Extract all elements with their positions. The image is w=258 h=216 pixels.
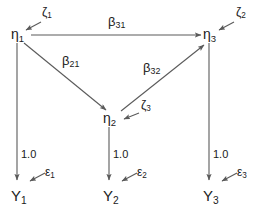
- path-arrows-layer: [0, 0, 258, 216]
- error-label-epsilon1: ε1: [45, 166, 55, 180]
- disturbance-label-zeta2: ζ2: [236, 6, 246, 20]
- observed-node-Y2: Y2: [103, 188, 119, 206]
- arrow-zeta3-to-eta2: [124, 113, 139, 119]
- disturbance-label-zeta1: ζ1: [42, 6, 52, 20]
- latent-node-eta1: η1: [11, 27, 24, 43]
- arrow-epsilon1-to-Y1: [30, 173, 45, 181]
- loading-label-2: 1.0: [113, 149, 128, 160]
- path-diagram-canvas: η1 η2 η3 ζ1 ζ2 ζ3 β31 β21 β32 1.0 1.0 1.…: [0, 0, 258, 216]
- arrow-zeta1-to-eta1: [26, 22, 41, 30]
- latent-node-eta3: η3: [203, 27, 216, 43]
- loading-label-3: 1.0: [213, 149, 228, 160]
- latent-node-eta2: η2: [103, 111, 116, 127]
- arrow-zeta2-to-eta3: [219, 22, 234, 30]
- arrow-epsilon3-to-Y3: [222, 173, 237, 181]
- observed-node-Y1: Y1: [11, 188, 27, 206]
- loading-label-1: 1.0: [21, 149, 36, 160]
- arrow-eta2-to-eta3: [121, 45, 204, 111]
- observed-node-Y3: Y3: [203, 188, 219, 206]
- arrow-epsilon2-to-Y2: [122, 173, 137, 181]
- path-label-beta31: β31: [108, 15, 125, 30]
- error-label-epsilon3: ε3: [237, 166, 247, 180]
- path-label-beta32: β32: [143, 61, 160, 76]
- error-label-epsilon2: ε2: [137, 166, 147, 180]
- disturbance-label-zeta3: ζ3: [141, 99, 151, 113]
- path-label-beta21: β21: [62, 54, 79, 69]
